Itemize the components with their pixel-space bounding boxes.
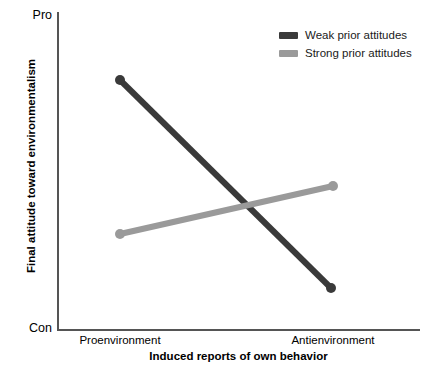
- data-point-marker: [115, 229, 125, 239]
- legend-label-weak: Weak prior attitudes: [305, 29, 407, 42]
- data-point-marker: [326, 283, 336, 293]
- interaction-line-chart: Pro Con Final attitude toward environmen…: [0, 0, 432, 369]
- legend-swatch-icon-strong: [279, 50, 298, 57]
- legend-swatch-icon-weak: [279, 32, 298, 39]
- series-line-weak-prior-attitudes: [115, 75, 336, 293]
- data-point-marker: [328, 181, 338, 191]
- series-line-segment: [120, 80, 331, 288]
- series-line-strong-prior-attitudes: [115, 181, 338, 239]
- legend-entry-weak: Weak prior attitudes: [279, 28, 412, 43]
- legend: Weak prior attitudes Strong prior attitu…: [279, 28, 412, 61]
- series-line-segment: [120, 186, 333, 234]
- legend-label-strong: Strong prior attitudes: [305, 47, 412, 60]
- data-point-marker: [115, 75, 125, 85]
- legend-entry-strong: Strong prior attitudes: [279, 46, 412, 61]
